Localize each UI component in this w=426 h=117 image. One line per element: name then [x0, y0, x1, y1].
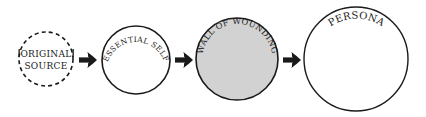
node-original-source: ORIGINAL SOURCE [19, 32, 74, 86]
arrow-icon [283, 52, 301, 68]
flow-diagram: ORIGINAL SOURCE ESSENTIAL SELF WALL OF W… [0, 0, 426, 117]
node-persona: PERSONA [304, 7, 408, 111]
original-source-label-line1: ORIGINAL [20, 49, 71, 59]
arrow-icon [175, 52, 193, 68]
diagram-canvas: ORIGINAL SOURCE ESSENTIAL SELF WALL OF W… [0, 0, 426, 117]
circle [304, 7, 408, 111]
node-essential-self: ESSENTIAL SELF [101, 26, 171, 94]
bracket-left [19, 49, 20, 57]
bracket-right [73, 49, 74, 57]
original-source-label-line2: SOURCE [24, 61, 67, 71]
node-wall-of-wounding: WALL OF WOUNDING [195, 16, 280, 100]
arrow-icon [79, 52, 97, 68]
dashed-circle [19, 32, 73, 86]
